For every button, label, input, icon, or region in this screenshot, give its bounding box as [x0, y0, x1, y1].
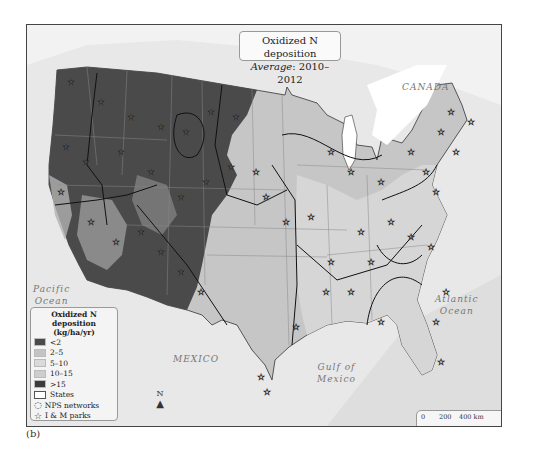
svg-text:☆: ☆: [262, 192, 270, 202]
swatch: [34, 338, 46, 346]
svg-text:☆: ☆: [67, 77, 75, 87]
star-icon: ☆: [34, 411, 42, 421]
title-line2: Average: 2010–2012: [240, 60, 340, 86]
legend-units: (kg/ha/yr): [34, 328, 114, 337]
figure-caption: (b): [26, 428, 40, 439]
svg-text:☆: ☆: [282, 217, 290, 227]
svg-text:☆: ☆: [437, 357, 445, 367]
label-gulf-of-mexico: Gulf ofMexico: [317, 361, 356, 385]
legend-item-networks: ◌NPS networks: [34, 400, 114, 411]
svg-text:☆: ☆: [202, 177, 210, 187]
title-line1: Oxidized N deposition: [240, 34, 340, 60]
svg-text:☆: ☆: [467, 117, 475, 127]
legend-title: Oxidized N deposition: [34, 310, 114, 328]
svg-text:☆: ☆: [157, 247, 165, 257]
svg-text:☆: ☆: [432, 187, 440, 197]
svg-text:☆: ☆: [137, 227, 145, 237]
svg-text:☆: ☆: [177, 192, 185, 202]
legend-item: 5–10: [34, 358, 114, 369]
svg-text:☆: ☆: [437, 127, 445, 137]
map-frame: ☆ ☆ ☆ ☆ ☆ ☆ ☆ ☆ ☆ ☆ ☆ ☆ ☆ ☆ ☆ ☆ ☆ ☆ ☆ ☆ …: [26, 24, 502, 427]
svg-text:☆: ☆: [447, 107, 455, 117]
legend-item: >15: [34, 379, 114, 390]
svg-text:☆: ☆: [347, 167, 355, 177]
svg-text:☆: ☆: [357, 227, 365, 237]
legend-item: 10–15: [34, 369, 114, 380]
svg-text:☆: ☆: [327, 147, 335, 157]
swatch: [34, 380, 46, 388]
svg-text:☆: ☆: [432, 317, 440, 327]
scale-bar: 0 200 400 km 0 100 200 400 mi: [416, 410, 502, 427]
states-icon: [34, 391, 46, 399]
svg-text:☆: ☆: [322, 287, 330, 297]
swatch: [34, 370, 46, 378]
swatch: [34, 359, 46, 367]
svg-text:☆: ☆: [87, 217, 95, 227]
svg-text:☆: ☆: [112, 237, 120, 247]
label-mexico: MEXICO: [173, 353, 219, 365]
svg-text:☆: ☆: [117, 147, 125, 157]
svg-text:☆: ☆: [367, 257, 375, 267]
legend: Oxidized N deposition (kg/ha/yr) <2 2–5 …: [30, 307, 118, 421]
legend-item-parks: ☆I & M parks: [34, 411, 114, 422]
svg-text:☆: ☆: [307, 212, 315, 222]
label-atlantic-ocean: AtlanticOcean: [435, 293, 479, 317]
label-pacific-ocean: PacificOcean: [33, 283, 70, 307]
svg-text:☆: ☆: [422, 167, 430, 177]
svg-text:☆: ☆: [292, 322, 300, 332]
svg-text:☆: ☆: [232, 112, 240, 122]
svg-text:☆: ☆: [377, 177, 385, 187]
svg-text:☆: ☆: [427, 242, 435, 252]
svg-text:☆: ☆: [97, 97, 105, 107]
legend-item: <2: [34, 337, 114, 348]
svg-text:☆: ☆: [252, 167, 260, 177]
map-title: Oxidized N deposition Average: 2010–2012: [239, 31, 341, 61]
svg-text:☆: ☆: [377, 317, 385, 327]
label-canada: CANADA: [402, 81, 449, 93]
svg-text:☆: ☆: [347, 287, 355, 297]
svg-text:☆: ☆: [177, 267, 185, 277]
svg-text:☆: ☆: [387, 217, 395, 227]
svg-text:☆: ☆: [147, 167, 155, 177]
svg-text:☆: ☆: [62, 142, 70, 152]
legend-item-states: States: [34, 390, 114, 401]
swatch: [34, 349, 46, 357]
north-arrow-icon: ▲: [155, 398, 165, 409]
svg-text:☆: ☆: [82, 157, 90, 167]
svg-text:☆: ☆: [207, 107, 215, 117]
svg-text:☆: ☆: [263, 387, 271, 397]
svg-text:☆: ☆: [182, 127, 190, 137]
svg-text:☆: ☆: [227, 162, 235, 172]
svg-text:☆: ☆: [157, 122, 165, 132]
svg-text:☆: ☆: [127, 112, 135, 122]
network-outline-icon: ◌: [34, 400, 42, 410]
svg-text:☆: ☆: [327, 257, 335, 267]
svg-text:☆: ☆: [452, 147, 460, 157]
svg-text:☆: ☆: [407, 147, 415, 157]
svg-text:☆: ☆: [257, 372, 265, 382]
svg-text:☆: ☆: [197, 287, 205, 297]
svg-text:☆: ☆: [407, 232, 415, 242]
legend-item: 2–5: [34, 348, 114, 359]
north-arrow: N ▲: [155, 389, 165, 409]
svg-text:☆: ☆: [57, 187, 65, 197]
